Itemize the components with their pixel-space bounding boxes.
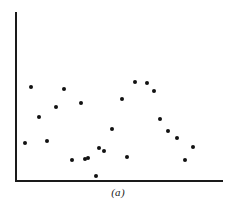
data-point (166, 129, 170, 133)
figure-caption: (a) (78, 186, 158, 198)
scatter-plot-figure: (a) (0, 0, 237, 208)
data-point (79, 101, 83, 105)
data-point (125, 155, 129, 159)
data-point (70, 158, 74, 162)
data-point (94, 174, 98, 178)
data-point (45, 139, 49, 143)
data-point (110, 127, 114, 131)
x-axis-line (15, 180, 223, 182)
data-point (175, 136, 179, 140)
data-point (29, 85, 33, 89)
data-point (152, 89, 156, 93)
data-point (62, 87, 66, 91)
data-point (23, 141, 27, 145)
data-point (191, 145, 195, 149)
data-point (37, 115, 41, 119)
plot-area (0, 0, 237, 208)
data-point (102, 149, 106, 153)
data-point (133, 80, 137, 84)
data-point (183, 158, 187, 162)
data-point (120, 97, 124, 101)
data-point (145, 81, 149, 85)
data-point (97, 146, 101, 150)
data-point (86, 156, 90, 160)
data-point (54, 105, 58, 109)
y-axis-line (15, 12, 17, 181)
data-point (158, 117, 162, 121)
